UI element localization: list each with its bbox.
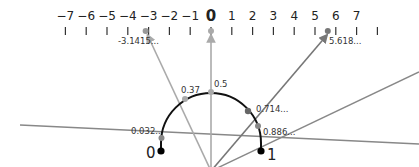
label-0886: 0.886... [263, 127, 295, 137]
tick-label: −4 [119, 9, 137, 23]
tick-label: −3 [140, 9, 158, 23]
endpoint-zero[interactable] [157, 147, 164, 154]
arc-point-037[interactable] [182, 96, 188, 102]
tick-label: 4 [290, 9, 298, 23]
left-secant-line [20, 125, 419, 144]
label-037: 0.37 [181, 85, 200, 95]
diagram-canvas: −7−6−5−4−3−2−101234567 [0, 0, 419, 167]
endpoint-one[interactable] [257, 147, 264, 154]
arc-point-0886[interactable] [255, 123, 261, 129]
tick-label: 5 [311, 9, 319, 23]
tick-label: 0 [206, 7, 216, 25]
label-05: 0.5 [214, 79, 228, 89]
number-line: −7−6−5−4−3−2−101234567 [22, 7, 392, 35]
label-0032: 0.032... [131, 126, 163, 136]
tick-label: −7 [57, 9, 75, 23]
tick-label: −5 [98, 9, 116, 23]
tick-label: 2 [249, 9, 257, 23]
tick-label: −6 [77, 9, 95, 23]
label-phi: 5.618... [329, 36, 361, 46]
tick-label: 7 [353, 9, 361, 23]
endpoint-label-one: 1 [267, 146, 277, 164]
number-line-tick-labels: −7−6−5−4−3−2−101234567 [57, 7, 361, 25]
number-line-semicircle-diagram: −7−6−5−4−3−2−101234567 [0, 0, 419, 167]
label-neg-pi: -3.1415... [118, 36, 159, 46]
tick-label: −1 [181, 9, 199, 23]
arc-points [159, 89, 262, 141]
right-secant-line [211, 72, 419, 167]
point-zero[interactable] [208, 28, 214, 34]
tick-label: −2 [161, 9, 179, 23]
tick-label: 6 [332, 9, 340, 23]
point-neg-pi[interactable] [143, 28, 149, 34]
arc-point-0714[interactable] [245, 108, 251, 114]
tick-label: 3 [270, 9, 278, 23]
arrow-to-neg-pi [148, 35, 212, 167]
point-phi[interactable] [325, 28, 331, 34]
tick-label: 1 [228, 9, 236, 23]
label-0714: 0.714... [256, 104, 288, 114]
arc-point-05[interactable] [208, 89, 214, 95]
endpoint-label-zero: 0 [146, 144, 156, 162]
